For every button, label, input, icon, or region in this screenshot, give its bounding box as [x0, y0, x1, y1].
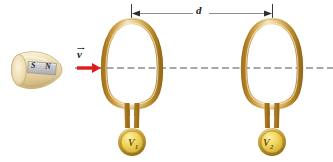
velocity-arrowhead [92, 63, 101, 73]
figure-canvas [0, 0, 333, 162]
loop-1 [102, 19, 162, 156]
dimension-arrowhead-right [264, 10, 272, 16]
magnet-north-pole-label: N [45, 63, 51, 71]
magnet-south-pole-label: S [31, 62, 36, 70]
voltmeter-1-label: V1 [128, 138, 138, 151]
distance-dimension [132, 4, 273, 22]
loop-2 [242, 19, 302, 156]
voltmeter-2-label-text: V [263, 137, 270, 148]
loop-1-ring [104, 21, 160, 107]
loop-2-lead-left-upper [267, 103, 268, 116]
voltmeter-1-label-text: V [128, 137, 135, 148]
velocity-arrow [77, 63, 101, 73]
physics-figure-induction-loops: d v S N V1 V2 [0, 0, 333, 162]
voltmeter-1-label-subscript: 1 [135, 143, 139, 151]
magnet-back-cap [12, 55, 27, 86]
bar-magnet [12, 52, 63, 89]
loop-2-lead-right-upper [277, 103, 278, 116]
velocity-label: v [77, 49, 82, 60]
voltmeter-2-label: V2 [263, 138, 273, 151]
loop-1-lead-right-upper [137, 103, 138, 116]
loop-2-ring [244, 21, 300, 107]
distance-label: d [196, 5, 202, 16]
voltmeter-2-label-subscript: 2 [270, 143, 274, 151]
vector-arrow-accent-icon [77, 46, 85, 51]
loop-1-lead-left-upper [127, 103, 128, 116]
dimension-arrowhead-left [132, 10, 140, 16]
